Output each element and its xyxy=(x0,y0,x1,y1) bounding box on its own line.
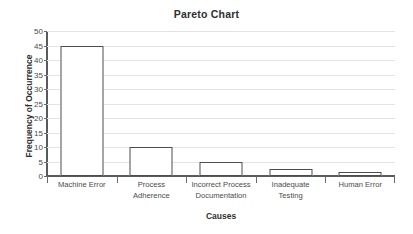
x-tick-label: Machine Error xyxy=(47,180,117,191)
y-tick-label: 25 xyxy=(34,99,43,108)
x-tick-label-line: Inadequate xyxy=(256,180,326,191)
x-tick-label: InadequateTesting xyxy=(256,180,326,201)
bar-slot xyxy=(325,31,395,176)
y-tick-label: 50 xyxy=(34,27,43,36)
x-tick-label-line: Machine Error xyxy=(47,180,117,191)
y-tick-label: 0 xyxy=(39,172,43,181)
y-tick-label: 45 xyxy=(34,41,43,50)
x-tick-label-line: Adherence xyxy=(117,191,187,202)
bar-slot xyxy=(47,31,117,176)
x-axis-title: Causes xyxy=(47,211,395,221)
x-tick-label-line: Incorrect Process xyxy=(186,180,256,191)
y-tick-label: 5 xyxy=(39,157,43,166)
pareto-chart: Pareto Chart Frequency of Occurrence 051… xyxy=(0,0,413,234)
x-tick-label: Incorrect ProcessDocumentation xyxy=(186,180,256,201)
bar[interactable] xyxy=(199,162,242,177)
y-tick-label: 30 xyxy=(34,85,43,94)
x-axis-tick-labels: Machine ErrorProcessAdherenceIncorrect P… xyxy=(47,180,395,212)
bar[interactable] xyxy=(130,147,173,176)
bar[interactable] xyxy=(339,172,382,176)
bar-slot xyxy=(186,31,256,176)
y-tick-label: 10 xyxy=(34,143,43,152)
x-tick-label-line: Testing xyxy=(256,191,326,202)
bar-series xyxy=(47,31,395,176)
bar[interactable] xyxy=(269,169,312,176)
x-tick-label: ProcessAdherence xyxy=(117,180,187,201)
y-tick-label: 20 xyxy=(34,114,43,123)
bar[interactable] xyxy=(60,46,103,177)
y-tick-label: 35 xyxy=(34,70,43,79)
plot-area: 05101520253035404550 xyxy=(47,31,395,176)
y-tick-label: 40 xyxy=(34,56,43,65)
x-tick-label: Human Error xyxy=(325,180,395,191)
bar-slot xyxy=(256,31,326,176)
chart-title: Pareto Chart xyxy=(0,8,413,20)
bar-slot xyxy=(117,31,187,176)
x-tick-label-line: Process xyxy=(117,180,187,191)
y-tick-label: 15 xyxy=(34,128,43,137)
x-tick-label-line: Documentation xyxy=(186,191,256,202)
x-tick-label-line: Human Error xyxy=(325,180,395,191)
